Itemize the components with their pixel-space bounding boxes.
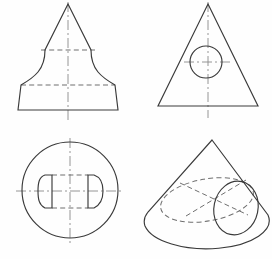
plan-left-d-shape [38,175,52,208]
triangle-outline [158,4,258,106]
drawing-canvas [0,0,272,259]
plan-right-d-shape [88,175,103,208]
panel-triangle-with-circle-view [158,2,258,118]
panel-circle-plan-view [16,138,124,243]
panel-bell-front-view [18,2,118,122]
panel-cone-pictorial-view [144,140,269,249]
technical-drawing-sheet [0,0,272,259]
cone-outline [144,140,269,249]
